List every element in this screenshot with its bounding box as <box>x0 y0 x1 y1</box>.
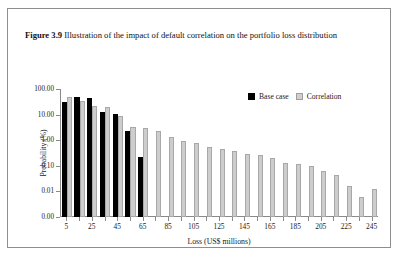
bar-correlation <box>105 107 110 217</box>
x-tick-mark <box>181 217 182 221</box>
x-tick-mark <box>232 217 233 221</box>
x-tick-mark <box>219 217 220 221</box>
figure-caption: Figure 3.9 Illustration of the impact of… <box>25 29 383 42</box>
bar-correlation <box>118 116 123 217</box>
x-tick-label: 45 <box>114 222 121 231</box>
x-tick-label: 245 <box>366 222 377 231</box>
x-tick-mark <box>346 217 347 221</box>
x-tick-mark <box>270 217 271 221</box>
bar-correlation <box>130 127 135 217</box>
x-tick-mark <box>143 217 144 221</box>
figure-label: Figure 3.9 <box>25 30 62 40</box>
x-tick-mark <box>308 217 309 221</box>
x-tick-label: 145 <box>239 222 250 231</box>
bar-correlation <box>169 137 174 217</box>
x-tick-mark <box>372 217 373 221</box>
y-tick-mark <box>56 115 60 116</box>
x-tick-mark <box>321 217 322 221</box>
figure-frame: Figure 3.9 Illustration of the impact of… <box>7 8 391 248</box>
bar-correlation <box>270 158 275 217</box>
bar-correlation <box>156 131 161 217</box>
x-tick-mark <box>92 217 93 221</box>
bar-correlation <box>359 197 364 217</box>
x-tick-label: 5 <box>65 222 69 231</box>
bar-correlation <box>309 166 314 217</box>
x-tick-mark <box>333 217 334 221</box>
x-tick-mark <box>79 217 80 221</box>
bar-correlation <box>232 151 237 217</box>
bar-correlation <box>321 171 326 217</box>
x-tick-mark <box>155 217 156 221</box>
bar-correlation <box>92 106 97 217</box>
x-tick-label: 25 <box>88 222 95 231</box>
x-axis-label: Loss (US$ millions) <box>187 237 250 246</box>
x-tick-mark <box>244 217 245 221</box>
x-tick-label: 205 <box>315 222 326 231</box>
y-tick-label: 10.00 <box>38 111 54 119</box>
bar-correlation <box>80 101 85 217</box>
x-tick-label: 165 <box>264 222 275 231</box>
y-tick-label: 0.00 <box>41 213 54 221</box>
y-tick-label: 0.10 <box>41 162 54 170</box>
x-tick-label: 185 <box>290 222 301 231</box>
x-tick-label: 85 <box>164 222 171 231</box>
x-tick-label: 105 <box>188 222 199 231</box>
x-tick-mark <box>105 217 106 221</box>
bar-correlation <box>220 149 225 217</box>
bar-correlation <box>194 143 199 217</box>
bar-correlation <box>296 164 301 217</box>
x-tick-mark <box>295 217 296 221</box>
y-tick-mark <box>56 89 60 90</box>
x-tick-mark <box>168 217 169 221</box>
bar-correlation <box>207 147 212 217</box>
x-tick-mark <box>257 217 258 221</box>
plot-area: 100.0010.001.000.100.010.00 525456585105… <box>60 89 378 217</box>
bar-correlation <box>181 141 186 217</box>
x-tick-mark <box>206 217 207 221</box>
bar-correlation <box>283 163 288 217</box>
x-tick-mark <box>117 217 118 221</box>
chart-plot: Probability (%) 100.0010.001.000.100.010… <box>60 89 378 217</box>
y-tick-mark <box>56 140 60 141</box>
y-tick-label: 100.00 <box>34 85 54 93</box>
bar-correlation <box>347 186 352 217</box>
figure-caption-text: Illustration of the impact of default co… <box>64 30 337 40</box>
y-tick-label: 1.00 <box>41 136 54 144</box>
y-tick-mark <box>56 217 60 218</box>
y-tick-mark <box>56 191 60 192</box>
y-tick-label: 0.01 <box>41 187 54 195</box>
x-tick-mark <box>66 217 67 221</box>
x-tick-mark <box>359 217 360 221</box>
y-tick-mark <box>56 166 60 167</box>
bar-correlation <box>258 155 263 217</box>
bar-correlation <box>372 189 377 217</box>
x-tick-label: 65 <box>139 222 146 231</box>
bar-correlation <box>334 175 339 217</box>
bar-correlation <box>67 97 72 217</box>
x-tick-label: 125 <box>213 222 224 231</box>
x-tick-mark <box>130 217 131 221</box>
bar-correlation <box>245 154 250 217</box>
x-tick-label: 225 <box>341 222 352 231</box>
x-tick-mark <box>194 217 195 221</box>
bar-correlation <box>143 128 148 217</box>
x-tick-mark <box>283 217 284 221</box>
